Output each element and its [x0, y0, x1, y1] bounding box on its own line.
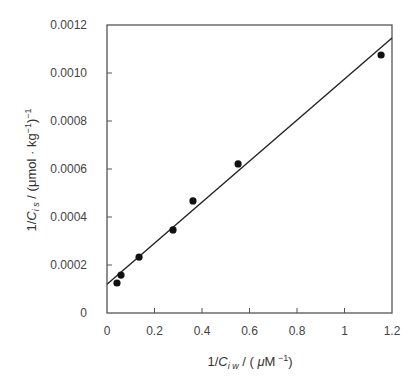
y-tick-label: 0.0006: [50, 162, 87, 176]
data-point: [113, 279, 120, 286]
data-point: [189, 197, 196, 204]
y-tick-label: 0.0010: [50, 66, 87, 80]
y-tick-label: 0.0004: [50, 210, 87, 224]
y-tick-label: 0.0008: [50, 114, 87, 128]
data-point: [377, 51, 384, 58]
scatter-plot: 00.00020.00040.00060.00080.00100.0012 00…: [0, 0, 418, 382]
regression-line: [107, 38, 392, 284]
data-point: [169, 226, 176, 233]
x-axis-label: 1/Ci w / ( μM −1): [207, 353, 292, 371]
x-tick-label: 0.4: [194, 324, 211, 338]
fit-line: [107, 38, 392, 284]
x-tick-label: 1.2: [384, 324, 401, 338]
y-tick-label: 0: [80, 306, 87, 320]
data-points: [113, 51, 384, 286]
x-tick-label: 1: [341, 324, 348, 338]
data-point: [117, 271, 124, 278]
data-point: [135, 253, 142, 260]
y-axis-ticks: 00.00020.00040.00060.00080.00100.0012: [50, 18, 112, 320]
y-tick-label: 0.0012: [50, 18, 87, 32]
x-tick-label: 0: [104, 324, 111, 338]
x-tick-label: 0.2: [146, 324, 163, 338]
plot-frame: [107, 25, 392, 313]
y-axis-label: 1/Ci s / (μmol · kg−1)−1: [23, 109, 41, 232]
x-tick-label: 0.8: [289, 324, 306, 338]
x-tick-label: 0.6: [241, 324, 258, 338]
plot-border: [107, 25, 392, 313]
data-point: [235, 160, 242, 167]
y-tick-label: 0.0002: [50, 258, 87, 272]
